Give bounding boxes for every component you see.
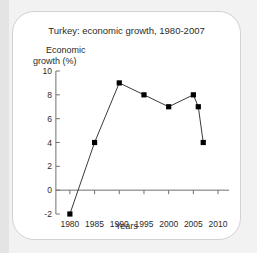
screenshot-root: Turkey: economic growth, 1980-2007 Econo… <box>0 0 257 253</box>
y-tick-label: 4 <box>47 138 52 148</box>
y-tick-label: 10 <box>42 66 52 76</box>
data-point-marker <box>117 80 122 85</box>
data-point-marker <box>141 92 146 97</box>
data-point-marker <box>67 211 72 216</box>
series-line <box>70 83 203 214</box>
y-tick-label: 2 <box>47 161 52 171</box>
y-tick-label: -2 <box>44 209 52 219</box>
left-edge-band <box>0 0 9 253</box>
data-point-marker <box>191 92 196 97</box>
x-axis-label: Years <box>13 221 240 231</box>
chart-card: Turkey: economic growth, 1980-2007 Econo… <box>12 11 241 240</box>
data-point-marker <box>92 140 97 145</box>
y-tick-label: 0 <box>47 185 52 195</box>
data-point-marker <box>196 104 201 109</box>
line-chart-plot: -202468101980198519901995200020052010 <box>13 12 242 241</box>
data-point-marker <box>166 104 171 109</box>
y-tick-label: 6 <box>47 114 52 124</box>
data-point-marker <box>201 140 206 145</box>
y-tick-label: 8 <box>47 90 52 100</box>
